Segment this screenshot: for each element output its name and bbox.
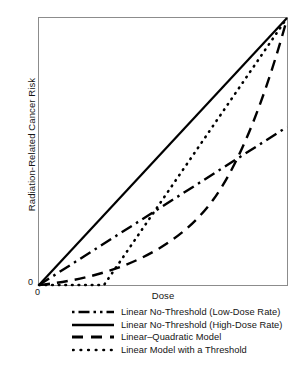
chart-canvas [0, 0, 306, 300]
legend-label: Linear Model with a Threshold [121, 345, 247, 355]
legend-item-linear-no-threshold-high-dose-rate: Linear No-Threshold (High-Dose Rate) [0, 319, 306, 332]
legend-label: Linear No-Threshold (High-Dose Rate) [121, 320, 282, 330]
chart-legend: Linear No-Threshold (Low-Dose Rate) Line… [0, 306, 306, 356]
legend-item-linear-model-with-threshold: Linear Model with a Threshold [0, 344, 306, 357]
legend-swatch-dashed-icon [72, 331, 114, 343]
legend-label: Linear No-Threshold (Low-Dose Rate) [121, 307, 280, 317]
legend-swatch-dotted-icon [72, 344, 114, 356]
plot-area: Radiation-Related Cancer Risk 0 0 Dose [0, 0, 306, 300]
legend-item-linear-no-threshold-low-dose-rate: Linear No-Threshold (Low-Dose Rate) [0, 306, 306, 319]
caption-fragment [0, 366, 306, 379]
legend-swatch-solid-icon [72, 319, 114, 331]
legend-item-linear-quadratic-model: Linear–Quadratic Model [0, 331, 306, 344]
x-axis-title: Dose [38, 290, 288, 301]
legend-swatch-dash-dot-icon [72, 306, 114, 318]
legend-label: Linear–Quadratic Model [121, 332, 221, 342]
figure-radiation-dose-response: Radiation-Related Cancer Risk 0 0 Dose [0, 0, 306, 379]
